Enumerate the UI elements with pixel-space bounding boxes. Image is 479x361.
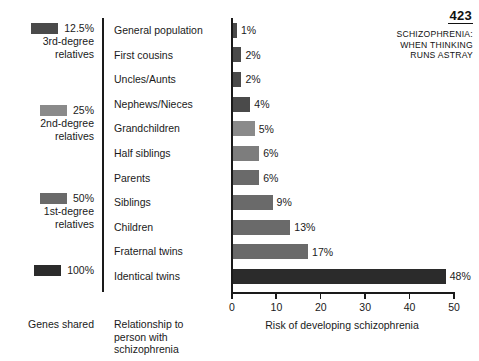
legend-row: 100%: [0, 264, 100, 276]
legend-percent-label: 100%: [67, 264, 100, 276]
relationship-footer-line-2: person with: [114, 331, 224, 344]
legend-subtitle-line: relatives: [0, 130, 100, 143]
relationship-label: Parents: [114, 166, 224, 191]
bar-row: 17%: [231, 239, 453, 264]
x-axis-tick: [231, 292, 233, 299]
x-axis-tick: [275, 292, 277, 299]
legend-subtitle-line: relatives: [0, 218, 100, 231]
genes-shared-footer-label: Genes shared: [0, 318, 100, 330]
legend-subtitle-line: 1st-degree: [0, 205, 100, 218]
legend-color-swatch: [40, 105, 67, 116]
bar-value-label: 17%: [312, 246, 333, 258]
legend-percent-label: 50%: [73, 192, 100, 204]
bar-row: 6%: [231, 166, 453, 191]
x-axis-tick-label: 20: [315, 301, 327, 313]
bar-row: 4%: [231, 92, 453, 117]
legend-row: 50%: [0, 192, 100, 204]
bar-row: 6%: [231, 141, 453, 166]
bar: [233, 244, 308, 259]
bar-row: 2%: [231, 43, 453, 68]
bar: [233, 220, 291, 235]
bar-value-label: 2%: [245, 73, 260, 85]
bar-value-label: 48%: [450, 270, 471, 282]
bar-value-label: 9%: [277, 196, 292, 208]
x-axis: Risk of developing schizophrenia 0102030…: [231, 292, 455, 332]
legend-group: 50%1st-degreerelatives: [0, 192, 100, 230]
bar-row: 2%: [231, 67, 453, 92]
legend-subtitle-line: 3rd-degree: [0, 35, 100, 48]
x-axis-tick-label: 0: [229, 301, 235, 313]
legend-color-swatch: [31, 23, 58, 34]
x-axis-tick: [409, 292, 411, 299]
relationship-label: Uncles/Aunts: [114, 67, 224, 92]
relationship-label: Nephews/Nieces: [114, 92, 224, 117]
relationship-footer-label: Relationship to person with schizophreni…: [114, 318, 224, 356]
relationship-label: Grandchildren: [114, 116, 224, 141]
bar-chart-plot: 1%2%2%4%5%6%6%9%13%17%48%: [231, 18, 453, 292]
legend-color-swatch: [34, 265, 61, 276]
bar-value-label: 6%: [263, 147, 278, 159]
relationship-footer-line-1: Relationship to: [114, 318, 224, 331]
legend-percent-label: 12.5%: [64, 22, 100, 34]
legend-group: 100%: [0, 264, 100, 276]
legend-group: 25%2nd-degreerelatives: [0, 104, 100, 142]
relationship-label: Fraternal twins: [114, 239, 224, 264]
x-axis-tick: [453, 292, 455, 299]
x-axis-tick: [320, 292, 322, 299]
bar-row: 1%: [231, 18, 453, 43]
x-axis-tick-label: 50: [448, 301, 460, 313]
x-axis-tick-label: 40: [404, 301, 416, 313]
bar: [233, 195, 273, 210]
relationship-label-list: General populationFirst cousinsUncles/Au…: [114, 18, 224, 289]
bar: [233, 146, 260, 161]
bar: [233, 269, 446, 284]
legend-row: 25%: [0, 104, 100, 116]
x-axis-line: [231, 292, 453, 294]
relationship-label: First cousins: [114, 43, 224, 68]
relationship-label: Siblings: [114, 190, 224, 215]
legend-color-swatch: [40, 193, 67, 204]
relationship-label: Children: [114, 215, 224, 240]
figure-page: 423 SCHIZOPHRENIA: WHEN THINKING RUNS AS…: [0, 0, 479, 361]
bar: [233, 97, 251, 112]
bar: [233, 23, 237, 38]
legend-group: 12.5%3rd-degreerelatives: [0, 22, 100, 60]
x-axis-tick-label: 30: [359, 301, 371, 313]
bar: [233, 170, 260, 185]
bar-row: 48%: [231, 264, 453, 289]
bar-value-label: 5%: [259, 123, 274, 135]
bar: [233, 47, 242, 62]
relationship-label: Identical twins: [114, 264, 224, 289]
legend-subtitle-line: 2nd-degree: [0, 117, 100, 130]
bar: [233, 72, 242, 87]
bar-value-label: 13%: [294, 221, 315, 233]
relationship-label: General population: [114, 18, 224, 43]
legend-subtitle-line: relatives: [0, 48, 100, 61]
column-divider: [102, 18, 104, 292]
legend-row: 12.5%: [0, 22, 100, 34]
bar-value-label: 4%: [254, 98, 269, 110]
bar-value-label: 6%: [263, 172, 278, 184]
legend-percent-label: 25%: [73, 104, 100, 116]
x-axis-title: Risk of developing schizophrenia: [265, 319, 419, 331]
relationship-footer-line-3: schizophrenia: [114, 343, 224, 356]
bar-row: 13%: [231, 215, 453, 240]
bar-value-label: 2%: [245, 49, 260, 61]
bar-value-label: 1%: [241, 24, 256, 36]
bar-row: 5%: [231, 116, 453, 141]
x-axis-tick-label: 10: [271, 301, 283, 313]
relationship-label: Half siblings: [114, 141, 224, 166]
bar: [233, 121, 255, 136]
bar-row: 9%: [231, 190, 453, 215]
x-axis-tick: [364, 292, 366, 299]
